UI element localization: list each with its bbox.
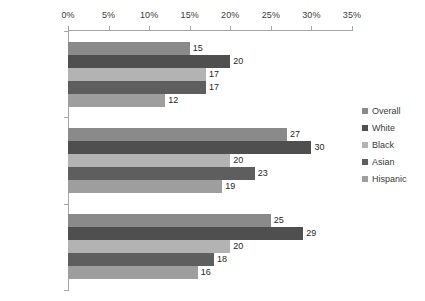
bar-value-label: 12 — [168, 94, 178, 107]
bar — [68, 128, 287, 141]
bar-value-label: 17 — [209, 81, 219, 94]
x-axis-tick-label: 35% — [343, 10, 361, 20]
x-axis-tick-mark — [311, 26, 312, 31]
legend-item[interactable]: Black — [362, 136, 424, 153]
bar-value-label: 16 — [201, 266, 211, 279]
x-axis-tick-label: 15% — [181, 10, 199, 20]
bar — [68, 154, 230, 167]
legend-item-label: Black — [372, 140, 394, 150]
x-axis-tick-mark — [190, 26, 191, 31]
x-axis-tick-mark — [352, 26, 353, 31]
legend-item[interactable]: White — [362, 119, 424, 136]
bar-value-label: 20 — [233, 55, 243, 68]
bar-value-label: 19 — [225, 180, 235, 193]
legend-swatch-icon — [362, 142, 368, 148]
y-axis-tick-mark — [64, 204, 69, 205]
bar-value-label: 23 — [258, 167, 268, 180]
bar — [68, 240, 230, 253]
x-axis-tick-label: 5% — [102, 10, 115, 20]
y-axis-tick-mark — [64, 117, 69, 118]
legend-swatch-icon — [362, 176, 368, 182]
y-axis-tick-mark — [64, 31, 69, 32]
x-axis-tick-labels: 0%5%10%15%20%25%30%35% — [0, 10, 425, 24]
bar-value-label: 18 — [217, 253, 227, 266]
x-axis-tick-label: 10% — [140, 10, 158, 20]
legend-swatch-icon — [362, 159, 368, 165]
legend-item[interactable]: Hispanic — [362, 170, 424, 187]
x-axis-tick-mark — [109, 26, 110, 31]
legend-item-label: Asian — [372, 157, 395, 167]
legend-item[interactable]: Asian — [362, 153, 424, 170]
bar — [68, 266, 198, 279]
bar — [68, 253, 214, 266]
x-axis-line — [68, 30, 352, 31]
bar — [68, 42, 190, 55]
x-axis-tick-label: 25% — [262, 10, 280, 20]
bar — [68, 81, 206, 94]
bar-value-label: 27 — [290, 128, 300, 141]
bar — [68, 214, 271, 227]
bar-value-label: 17 — [209, 68, 219, 81]
x-axis-tick-label: 0% — [61, 10, 74, 20]
bar — [68, 227, 303, 240]
bar-value-label: 25 — [274, 214, 284, 227]
chart-legend: OverallWhiteBlackAsianHispanic — [362, 102, 424, 187]
bar — [68, 141, 311, 154]
bar — [68, 55, 230, 68]
x-axis-tick-mark — [230, 26, 231, 31]
legend-item-label: White — [372, 123, 395, 133]
bar-value-label: 20 — [233, 154, 243, 167]
legend-item-label: Overall — [372, 106, 401, 116]
bar — [68, 180, 222, 193]
x-axis-tick-mark — [149, 26, 150, 31]
bar-chart: 0%5%10%15%20%25%30%35% 15201717122730202… — [0, 0, 425, 301]
bar-value-label: 30 — [314, 141, 324, 154]
legend-swatch-icon — [362, 108, 368, 114]
legend-item[interactable]: Overall — [362, 102, 424, 119]
x-axis-tick-label: 20% — [221, 10, 239, 20]
x-axis-tick-mark — [271, 26, 272, 31]
bar — [68, 68, 206, 81]
x-axis-tick-label: 30% — [302, 10, 320, 20]
bar — [68, 167, 255, 180]
bar-value-label: 29 — [306, 227, 316, 240]
bar-value-label: 20 — [233, 240, 243, 253]
legend-item-label: Hispanic — [372, 174, 407, 184]
legend-swatch-icon — [362, 125, 368, 131]
y-axis-tick-mark — [64, 290, 69, 291]
bar — [68, 94, 165, 107]
bar-value-label: 15 — [193, 42, 203, 55]
